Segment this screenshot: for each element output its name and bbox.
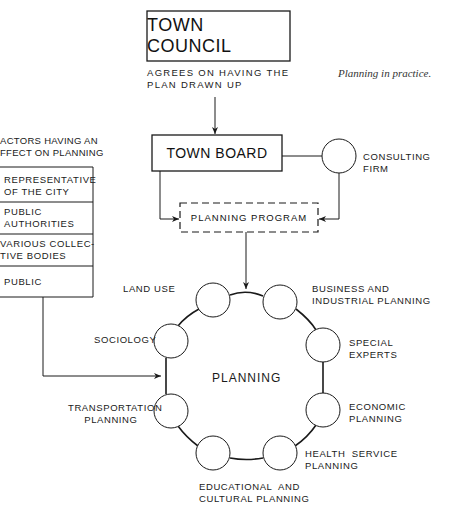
node-business — [263, 285, 297, 319]
town-board-title: TOWN BOARD — [152, 135, 282, 171]
arrow-board-to-program — [160, 171, 179, 219]
planning-center-label: PLANNING — [212, 371, 281, 385]
label-sociology: SOCIOLOGY — [94, 334, 156, 346]
figure-caption: Planning in practice. — [338, 67, 431, 79]
town-council-title: TOWN COUNCIL — [147, 11, 290, 61]
label-business: BUSINESS AND INDUSTRIAL PLANNING — [312, 283, 431, 307]
label-transportation: TRANSPORTATION PLANNING — [68, 402, 162, 426]
factor-row-representative: REPRESENTATIVE OF THE CITY — [4, 174, 97, 198]
factor-row-public-authorities: PUBLIC AUTHORITIES — [4, 206, 74, 230]
factor-row-public: PUBLIC — [4, 276, 42, 288]
consulting-firm-node — [322, 139, 356, 173]
label-special-experts: SPECIAL EXPERTS — [349, 337, 397, 361]
node-health — [263, 436, 297, 470]
label-economic: ECONOMIC PLANNING — [349, 401, 406, 425]
factors-heading: ACTORS HAVING AN FFECT ON PLANNING — [0, 135, 104, 159]
node-educational — [196, 436, 230, 470]
node-economic — [306, 393, 340, 427]
arrow-consulting-to-program — [319, 173, 339, 219]
node-land-use — [196, 283, 230, 317]
node-special-experts — [306, 328, 340, 362]
planning-program-title: PLANNING PROGRAM — [180, 203, 318, 232]
consulting-firm-label: CONSULTING FIRM — [363, 151, 431, 175]
label-land-use: LAND USE — [123, 283, 175, 295]
label-educational: EDUCATIONAL AND CULTURAL PLANNING — [199, 481, 310, 505]
node-sociology — [154, 324, 188, 358]
factor-row-collective-bodies: VARIOUS COLLEC- TIVE BODIES — [0, 238, 95, 262]
town-council-note: AGREES ON HAVING THE PLAN DRAWN UP — [147, 67, 289, 91]
label-health: HEALTH SERVICE PLANNING — [305, 448, 398, 472]
